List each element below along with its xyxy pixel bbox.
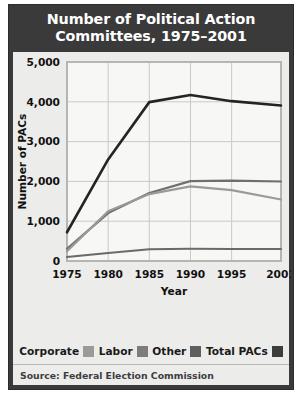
y-axis-tick-label: 4,000 — [26, 96, 60, 108]
x-axis-title: Year — [160, 285, 188, 297]
legend-color-swatch — [137, 346, 148, 357]
y-axis-tick-label: 5,000 — [26, 56, 60, 68]
chart-title-line-2: Committees, 1975–2001 — [19, 28, 283, 45]
x-axis-tick-label: 1985 — [135, 268, 165, 280]
legend-item: Labor — [99, 345, 148, 357]
legend-item-label: Total PACs — [206, 345, 268, 357]
chart-title: Number of Political Action Committees, 1… — [9, 5, 293, 52]
legend-item-label: Other — [152, 345, 186, 357]
x-axis-tick-label: 1975 — [52, 268, 82, 280]
x-axis-tick-label: 1995 — [217, 268, 247, 280]
y-axis-tick-label: 2,000 — [26, 175, 60, 187]
legend-item: Corporate — [19, 345, 94, 357]
legend-item: Other — [152, 345, 201, 357]
legend-color-swatch — [83, 346, 94, 357]
legend-color-swatch — [190, 346, 201, 357]
line-chart: 01,0002,0003,0004,0005,00019751980198519… — [13, 52, 291, 307]
y-axis-tick-label: 1,000 — [26, 215, 60, 227]
chart-source: Source: Federal Election Commission — [13, 364, 289, 385]
chart-title-line-1: Number of Political Action — [19, 11, 283, 28]
source-text: Source: Federal Election Commission — [20, 370, 214, 381]
x-axis-tick-label: 1980 — [93, 268, 123, 280]
legend-color-swatch — [272, 346, 283, 357]
chart-figure: Number of Political Action Committees, 1… — [8, 4, 294, 390]
x-axis-tick-label: 1990 — [176, 268, 206, 280]
y-axis-tick-label: 0 — [53, 255, 60, 267]
legend-item: Total PACs — [206, 345, 283, 357]
y-axis-title: Number of PACs — [16, 114, 28, 210]
chart-legend: CorporateLaborOtherTotal PACs — [13, 338, 289, 364]
plot-background — [67, 62, 281, 261]
chart-plot-panel: 01,0002,0003,0004,0005,00019751980198519… — [13, 52, 289, 338]
legend-item-label: Labor — [99, 345, 133, 357]
x-axis-tick-label: 2001 — [266, 268, 291, 280]
y-axis-tick-label: 3,000 — [26, 135, 60, 147]
legend-item-label: Corporate — [19, 345, 79, 357]
